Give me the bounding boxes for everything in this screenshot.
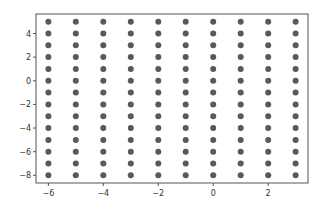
data-point xyxy=(293,19,299,25)
data-point xyxy=(155,31,161,37)
data-point xyxy=(45,137,51,143)
data-point xyxy=(293,113,299,119)
data-point xyxy=(155,78,161,84)
data-point xyxy=(210,149,216,155)
data-point xyxy=(293,101,299,107)
data-point xyxy=(265,66,271,72)
data-point xyxy=(100,125,106,131)
data-point xyxy=(210,113,216,119)
data-point xyxy=(183,137,189,143)
x-tick-label: 0 xyxy=(211,189,216,198)
data-point xyxy=(128,161,134,167)
data-point xyxy=(265,172,271,178)
data-point xyxy=(293,78,299,84)
data-point xyxy=(238,19,244,25)
data-point xyxy=(293,149,299,155)
data-point xyxy=(128,172,134,178)
y-tick-label: −2 xyxy=(19,100,31,109)
data-point xyxy=(155,137,161,143)
data-point xyxy=(45,78,51,84)
data-point xyxy=(100,137,106,143)
x-tick-label: −4 xyxy=(97,189,109,198)
data-point xyxy=(210,125,216,131)
data-point xyxy=(128,101,134,107)
data-point xyxy=(265,113,271,119)
data-point xyxy=(155,66,161,72)
data-point xyxy=(128,42,134,48)
data-point xyxy=(210,42,216,48)
data-point xyxy=(238,66,244,72)
data-point xyxy=(128,31,134,37)
data-point xyxy=(45,149,51,155)
data-point xyxy=(238,137,244,143)
data-point xyxy=(183,31,189,37)
data-point xyxy=(293,66,299,72)
data-point xyxy=(45,125,51,131)
data-point xyxy=(100,149,106,155)
data-point xyxy=(73,137,79,143)
data-point xyxy=(265,101,271,107)
data-point xyxy=(265,125,271,131)
data-point xyxy=(73,42,79,48)
data-point xyxy=(73,149,79,155)
data-point xyxy=(183,161,189,167)
data-point xyxy=(155,90,161,96)
scatter-chart: −6−4−202 −8−6−4−2024 xyxy=(0,0,325,211)
y-tick-label: −4 xyxy=(19,124,31,133)
data-point xyxy=(293,137,299,143)
x-axis-ticks: −6−4−202 xyxy=(42,183,270,198)
data-point xyxy=(45,66,51,72)
data-point xyxy=(73,31,79,37)
data-point xyxy=(128,66,134,72)
data-point xyxy=(293,54,299,60)
data-point xyxy=(100,31,106,37)
data-point xyxy=(238,113,244,119)
x-tick-label: 2 xyxy=(266,189,271,198)
y-tick-label: 4 xyxy=(26,30,31,39)
data-point xyxy=(265,78,271,84)
data-point xyxy=(183,172,189,178)
data-point xyxy=(155,19,161,25)
data-point xyxy=(183,125,189,131)
data-point xyxy=(210,172,216,178)
data-point xyxy=(45,161,51,167)
data-point xyxy=(128,54,134,60)
data-point xyxy=(155,125,161,131)
data-point xyxy=(73,78,79,84)
data-point xyxy=(265,161,271,167)
data-point xyxy=(45,54,51,60)
data-point xyxy=(238,31,244,37)
data-point xyxy=(45,19,51,25)
data-point xyxy=(238,42,244,48)
data-point xyxy=(128,137,134,143)
data-point xyxy=(73,101,79,107)
data-point xyxy=(183,90,189,96)
data-point xyxy=(183,113,189,119)
data-point xyxy=(293,31,299,37)
y-tick-label: −6 xyxy=(19,148,31,157)
data-point xyxy=(73,19,79,25)
data-point xyxy=(155,161,161,167)
data-point xyxy=(100,113,106,119)
data-points xyxy=(45,19,298,179)
x-tick-label: −2 xyxy=(152,189,164,198)
data-point xyxy=(265,90,271,96)
data-point xyxy=(183,149,189,155)
data-point xyxy=(100,101,106,107)
data-point xyxy=(155,172,161,178)
data-point xyxy=(265,54,271,60)
data-point xyxy=(45,113,51,119)
data-point xyxy=(155,149,161,155)
data-point xyxy=(293,172,299,178)
data-point xyxy=(100,19,106,25)
data-point xyxy=(210,19,216,25)
data-point xyxy=(210,161,216,167)
data-point xyxy=(73,66,79,72)
data-point xyxy=(238,54,244,60)
data-point xyxy=(210,137,216,143)
data-point xyxy=(100,42,106,48)
data-point xyxy=(128,78,134,84)
data-point xyxy=(155,113,161,119)
data-point xyxy=(210,31,216,37)
data-point xyxy=(73,172,79,178)
